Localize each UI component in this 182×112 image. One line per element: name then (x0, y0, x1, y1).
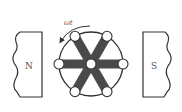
wheel (54, 31, 128, 96)
diagram-canvas: N S ωt (0, 0, 182, 112)
south-magnet: S (143, 32, 171, 97)
node-top-right (102, 31, 112, 41)
north-pole-label: N (25, 61, 33, 71)
rotation-label: ωt (64, 19, 73, 27)
node-bottom-left (70, 87, 80, 97)
node-top-left (70, 31, 80, 41)
north-magnet: N (13, 32, 42, 97)
node-bottom-right (102, 87, 112, 97)
south-pole-label: S (151, 61, 157, 71)
node-right (118, 59, 128, 69)
node-left (54, 59, 64, 69)
hub-node (86, 59, 96, 69)
